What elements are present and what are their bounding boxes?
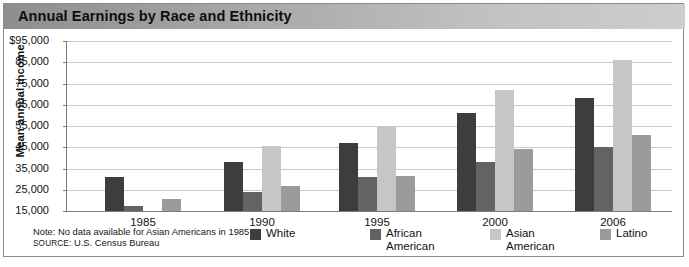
bar xyxy=(514,149,533,211)
y-axis-tick xyxy=(63,41,67,42)
bar-group xyxy=(575,41,651,211)
y-axis-tick xyxy=(63,62,67,63)
plot-area: $95,00085,00075,00065,00055,00045,00035,… xyxy=(66,41,672,212)
bar xyxy=(377,127,396,211)
bar xyxy=(224,162,243,211)
y-axis-tick-label: 25,000 xyxy=(0,183,49,195)
x-axis-tick-label: 2006 xyxy=(555,216,671,228)
bar-group xyxy=(105,41,181,211)
bar xyxy=(339,143,358,211)
plot-area-wrapper: Mean annual income $95,00085,00075,00065… xyxy=(4,29,685,258)
y-axis-tick xyxy=(63,190,67,191)
bar-group xyxy=(457,41,533,211)
bar-group xyxy=(224,41,300,211)
y-axis-tick-label: 35,000 xyxy=(0,162,49,174)
bar xyxy=(105,177,124,211)
note-line: Note: No data available for Asian Americ… xyxy=(33,226,249,237)
y-axis-tick-label: 75,000 xyxy=(0,77,49,89)
legend-swatch xyxy=(370,229,381,240)
bar xyxy=(594,147,613,211)
chart-frame: Annual Earnings by Race and Ethnicity Me… xyxy=(3,3,684,257)
bar xyxy=(632,135,651,212)
y-axis-tick-label: 85,000 xyxy=(0,55,49,67)
bar xyxy=(575,98,594,211)
chart-note: Note: No data available for Asian Americ… xyxy=(33,226,249,250)
source-text: U.S. Census Bureau xyxy=(71,237,159,248)
y-axis-tick-label: $95,000 xyxy=(0,34,49,46)
bar xyxy=(495,90,514,211)
bar xyxy=(281,186,300,212)
y-axis-tick xyxy=(63,169,67,170)
bar xyxy=(476,162,495,211)
y-axis-tick-label: 55,000 xyxy=(0,119,49,131)
y-axis-tick xyxy=(63,147,67,148)
legend-label: White xyxy=(266,227,295,240)
y-axis-tick xyxy=(63,84,67,85)
chart-title-bar: Annual Earnings by Race and Ethnicity xyxy=(4,4,685,29)
chart-legend: WhiteAfrican AmericanAsian AmericanLatin… xyxy=(250,228,670,258)
y-axis-tick xyxy=(63,126,67,127)
legend-swatch xyxy=(600,229,611,240)
bar xyxy=(358,177,377,211)
bar xyxy=(262,146,281,211)
bar xyxy=(457,113,476,211)
bar-group xyxy=(339,41,415,211)
y-axis-tick xyxy=(63,211,67,212)
legend-label: Asian American xyxy=(506,227,555,252)
chart-figure: Annual Earnings by Race and Ethnicity Me… xyxy=(0,0,689,267)
y-axis-tick-label: 45,000 xyxy=(0,140,49,152)
bar xyxy=(396,176,415,211)
legend-label: African American xyxy=(386,227,435,252)
source-label: SOURCE: xyxy=(33,239,71,248)
page-title: Annual Earnings by Race and Ethnicity xyxy=(18,8,292,24)
bar xyxy=(162,199,181,211)
bar xyxy=(613,60,632,211)
legend-label: Latino xyxy=(616,227,647,240)
y-axis-tick xyxy=(63,105,67,106)
source-line: SOURCE: U.S. Census Bureau xyxy=(33,237,249,249)
bar xyxy=(243,192,262,211)
legend-swatch xyxy=(250,229,261,240)
legend-swatch xyxy=(490,229,501,240)
bar xyxy=(124,206,143,211)
y-axis-tick-label: 15,000 xyxy=(0,204,49,216)
y-axis-tick-label: 65,000 xyxy=(0,98,49,110)
